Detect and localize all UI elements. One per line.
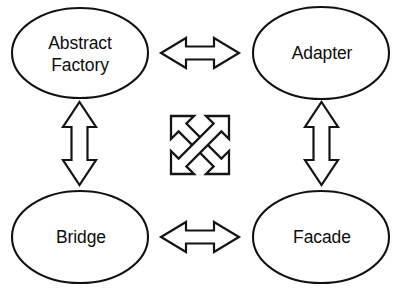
- connector-abstract-factory-adapter[interactable]: [161, 38, 239, 68]
- double-headed-arrow-vertical-left: [63, 102, 96, 185]
- double-headed-arrow-vertical-right: [305, 102, 338, 185]
- node-bridge-label: Bridge: [56, 227, 106, 247]
- node-facade[interactable]: Facade: [253, 191, 389, 283]
- crossed-diagonal-double-arrows-icon: [171, 116, 229, 174]
- node-abstract-factory-label-line1: Abstract: [48, 33, 112, 53]
- double-headed-arrow-horizontal-bottom: [161, 222, 239, 252]
- pattern-relationship-diagram: Abstract Factory Adapter Bridge Facade: [0, 0, 402, 292]
- node-abstract-factory[interactable]: Abstract Factory: [12, 8, 148, 98]
- node-adapter[interactable]: Adapter: [253, 7, 389, 99]
- node-facade-label: Facade: [293, 227, 351, 247]
- connector-bridge-facade[interactable]: [161, 222, 239, 252]
- node-adapter-label: Adapter: [292, 43, 353, 63]
- double-headed-arrow-horizontal-top: [161, 38, 239, 68]
- node-bridge[interactable]: Bridge: [12, 191, 148, 283]
- diagram-canvas: Abstract Factory Adapter Bridge Facade: [0, 0, 402, 292]
- connector-abstract-factory-bridge[interactable]: [63, 102, 96, 185]
- connector-adapter-facade[interactable]: [305, 102, 338, 185]
- node-abstract-factory-ellipse: [12, 8, 148, 98]
- node-abstract-factory-label-line2: Factory: [51, 55, 109, 75]
